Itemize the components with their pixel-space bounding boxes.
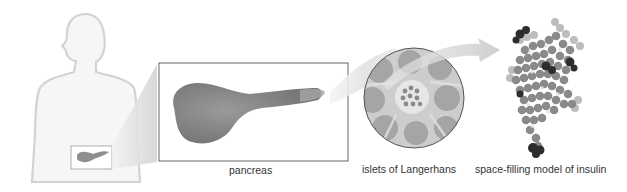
label-insulin-model: space-filling model of insulin	[475, 163, 606, 175]
label-islets-of-langerhans: islets of Langerhans	[362, 163, 456, 175]
insulin-molecule	[506, 18, 584, 158]
label-pancreas: pancreas	[229, 164, 272, 176]
pancreas-box	[159, 63, 348, 161]
insulin-diagram: pancreas islets of Langerhans space-fill…	[0, 0, 627, 192]
pancreas-location-box	[71, 146, 112, 169]
